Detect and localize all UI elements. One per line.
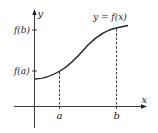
curve-fx bbox=[35, 26, 128, 80]
curve-label: y = f(x) bbox=[92, 12, 127, 22]
y-axis-arrow-icon bbox=[32, 9, 36, 15]
x-axis-label: x bbox=[142, 94, 148, 105]
function-graph: y x y = f(x) f(b) f(a) a b bbox=[0, 0, 158, 133]
y-tick-label-fa: f(a) bbox=[13, 66, 30, 76]
y-axis-label: y bbox=[37, 8, 44, 19]
x-tick-label-a: a bbox=[57, 110, 63, 121]
x-tick-label-b: b bbox=[114, 110, 120, 121]
y-tick-label-fb: f(b) bbox=[13, 25, 31, 35]
